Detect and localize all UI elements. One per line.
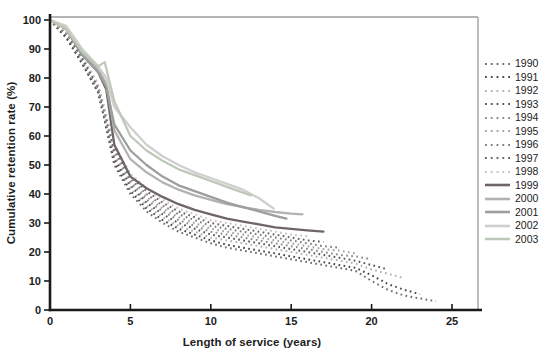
legend-label: 2001 — [515, 206, 538, 220]
x-tick-label: 20 — [365, 315, 377, 327]
series-line-2002 — [50, 20, 274, 209]
y-tick-label: 80 — [29, 72, 41, 84]
legend-item-2000: 2000 — [484, 192, 538, 206]
x-tick-label: 10 — [205, 315, 217, 327]
legend-label: 1997 — [515, 152, 538, 166]
x-tick-label: 0 — [47, 315, 53, 327]
y-tick-label: 60 — [29, 130, 41, 142]
y-tick-label: 50 — [29, 159, 41, 171]
series-line-1992 — [50, 20, 404, 278]
legend-label: 1996 — [515, 138, 538, 152]
x-tick-label: 25 — [446, 315, 458, 327]
legend-item-2001: 2001 — [484, 206, 538, 220]
legend-label: 1991 — [515, 71, 538, 85]
series-line-1991 — [50, 20, 420, 294]
legend-label: 1990 — [515, 57, 538, 71]
series-line-1999 — [50, 20, 323, 232]
legend-item-2003: 2003 — [484, 233, 538, 247]
legend-item-1997: 1997 — [484, 152, 538, 166]
legend-item-1999: 1999 — [484, 179, 538, 193]
legend-label: 2003 — [515, 233, 538, 247]
y-tick-label: 100 — [23, 14, 41, 26]
legend-label: 1994 — [515, 111, 538, 125]
y-tick-label: 90 — [29, 43, 41, 55]
legend-marker-solid — [484, 222, 511, 230]
legend-item-1992: 1992 — [484, 84, 538, 98]
y-tick-label: 10 — [29, 275, 41, 287]
legend-item-1996: 1996 — [484, 138, 538, 152]
y-tick-label: 0 — [35, 304, 41, 316]
y-tick-label: 20 — [29, 246, 41, 258]
legend-item-1998: 1998 — [484, 165, 538, 179]
legend-marker-dotted — [484, 100, 511, 108]
legend-marker-dotted — [484, 114, 511, 122]
legend-marker-solid — [484, 181, 511, 189]
legend-marker-dotted — [484, 73, 511, 81]
x-tick-label: 15 — [285, 315, 297, 327]
series-line-2001 — [50, 20, 286, 219]
legend-label: 1993 — [515, 98, 538, 112]
legend-item-1993: 1993 — [484, 98, 538, 112]
legend-label: 2000 — [515, 192, 538, 206]
legend-marker-solid — [484, 195, 511, 203]
y-tick-label: 40 — [29, 188, 41, 200]
series-line-1993 — [50, 20, 388, 269]
series-line-1997 — [50, 20, 323, 242]
legend-item-1991: 1991 — [484, 71, 538, 85]
series-line-1995 — [50, 20, 356, 253]
legend-marker-dotted — [484, 168, 511, 176]
chart-plot-area: 01020304050607080901000510152025 — [0, 0, 550, 358]
legend-marker-dotted — [484, 60, 511, 68]
legend-item-1995: 1995 — [484, 125, 538, 139]
legend-label: 2002 — [515, 219, 538, 233]
legend-label: 1999 — [515, 179, 538, 193]
legend-marker-solid — [484, 235, 511, 243]
legend-marker-dotted — [484, 141, 511, 149]
retention-rate-figure: 01020304050607080901000510152025 Cumulat… — [0, 0, 550, 358]
y-tick-label: 30 — [29, 217, 41, 229]
series-line-1994 — [50, 20, 372, 259]
y-tick-label: 70 — [29, 101, 41, 113]
series-line-1990 — [50, 20, 436, 301]
legend-marker-dotted — [484, 87, 511, 95]
legend: 1990199119921993199419951996199719981999… — [484, 57, 538, 246]
legend-marker-dotted — [484, 154, 511, 162]
legend-label: 1995 — [515, 125, 538, 139]
legend-label: 1998 — [515, 165, 538, 179]
legend-marker-solid — [484, 208, 511, 216]
legend-item-1990: 1990 — [484, 57, 538, 71]
legend-marker-dotted — [484, 127, 511, 135]
y-axis-title: Cumulative retention rate (%) — [5, 13, 17, 313]
x-tick-label: 5 — [127, 315, 133, 327]
legend-item-2002: 2002 — [484, 219, 538, 233]
x-axis-title: Length of service (years) — [50, 336, 454, 348]
legend-label: 1992 — [515, 84, 538, 98]
legend-item-1994: 1994 — [484, 111, 538, 125]
